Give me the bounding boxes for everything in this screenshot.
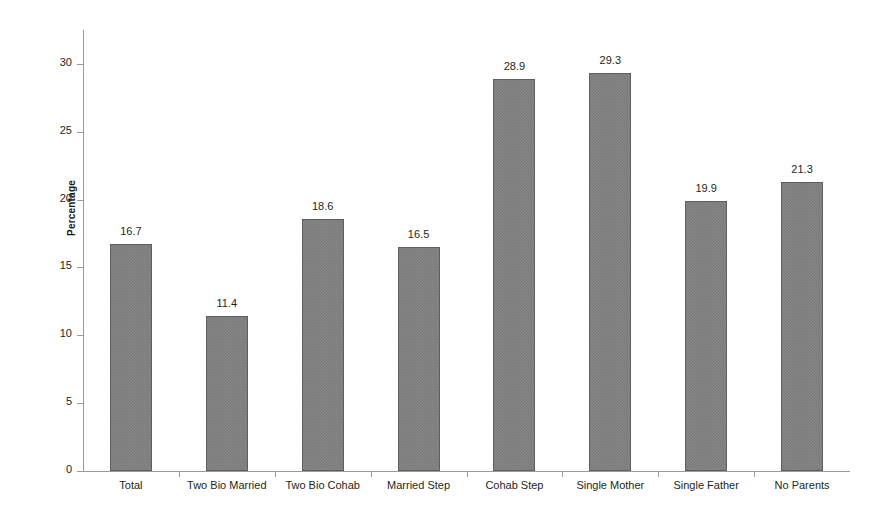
bar-value-label: 16.5 <box>389 228 449 240</box>
x-axis-tick-mark <box>371 471 372 477</box>
bar-value-label: 28.9 <box>484 60 544 72</box>
y-axis-tick-label: 0 <box>66 463 72 475</box>
y-axis-title: Percentage <box>66 148 82 268</box>
x-axis-category-label: Single Father <box>658 479 754 491</box>
bar-value-label: 29.3 <box>580 54 640 66</box>
bar-value-label: 11.4 <box>197 297 257 309</box>
bar <box>110 244 152 471</box>
y-axis-tick: 25 <box>0 132 83 133</box>
x-axis-category-label: No Parents <box>754 479 850 491</box>
y-axis-tick-mark <box>77 64 83 65</box>
bar <box>493 79 535 471</box>
x-axis-tick-mark <box>658 471 659 477</box>
x-axis-tick-mark <box>754 471 755 477</box>
x-axis-category-label: Cohab Step <box>467 479 563 491</box>
y-axis-tick-label: 30 <box>60 56 72 68</box>
y-axis-tick-label: 15 <box>60 259 72 271</box>
y-axis-tick-mark <box>77 471 83 472</box>
bar <box>685 201 727 471</box>
y-axis-tick: 5 <box>0 403 83 404</box>
y-axis-tick-mark <box>77 200 83 201</box>
bar-value-label: 16.7 <box>101 225 161 237</box>
y-axis-tick-label: 25 <box>60 124 72 136</box>
bar <box>781 182 823 471</box>
bar-value-label: 21.3 <box>772 163 832 175</box>
y-axis-tick-label: 5 <box>66 395 72 407</box>
y-axis-tick: 0 <box>0 471 83 472</box>
bar <box>206 316 248 471</box>
y-axis-tick-label: 20 <box>60 192 72 204</box>
y-axis-tick-mark <box>77 335 83 336</box>
x-axis-tick-mark <box>179 471 180 477</box>
bar <box>589 73 631 471</box>
y-axis-tick: 30 <box>0 64 83 65</box>
bar-value-label: 18.6 <box>293 200 353 212</box>
y-axis-tick-label: 10 <box>60 327 72 339</box>
y-axis-tick-mark <box>77 132 83 133</box>
x-axis-tick-mark <box>562 471 563 477</box>
x-axis-tick-mark <box>275 471 276 477</box>
x-axis-category-label: Single Mother <box>562 479 658 491</box>
y-axis-tick: 10 <box>0 335 83 336</box>
bar-value-label: 19.9 <box>676 182 736 194</box>
bar <box>302 219 344 471</box>
y-axis-tick: 20 <box>0 200 83 201</box>
y-axis-tick: 15 <box>0 267 83 268</box>
bar <box>398 247 440 471</box>
x-axis-category-label: Two Bio Married <box>179 479 275 491</box>
x-axis-category-label: Two Bio Cohab <box>275 479 371 491</box>
x-axis-category-label: Total <box>83 479 179 491</box>
x-axis-tick-mark <box>467 471 468 477</box>
y-axis-tick-mark <box>77 403 83 404</box>
bar-chart: Percentage 051015202530 16.711.418.616.5… <box>0 0 871 520</box>
x-axis-category-label: Married Step <box>371 479 467 491</box>
y-axis-line <box>83 30 84 472</box>
y-axis-tick-mark <box>77 267 83 268</box>
